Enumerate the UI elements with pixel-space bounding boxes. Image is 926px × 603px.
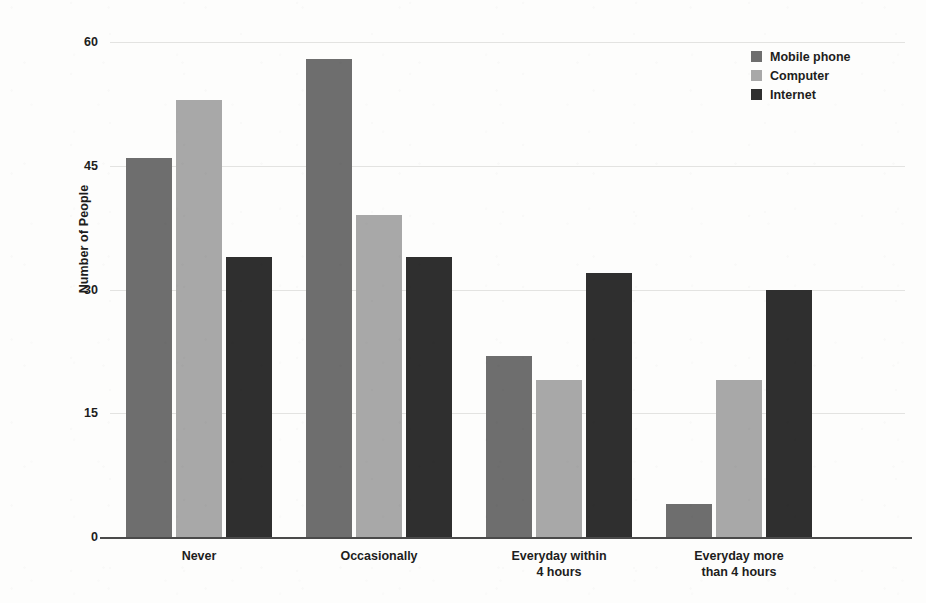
legend-item: Mobile phone <box>751 48 851 65</box>
legend-item: Computer <box>751 67 851 84</box>
y-tick-label: 0 <box>54 530 98 544</box>
bar <box>226 257 272 538</box>
y-tick-label: 15 <box>54 406 98 420</box>
y-tick-label: 30 <box>54 283 98 297</box>
y-tick-label: 45 <box>54 159 98 173</box>
x-category-label: Occasionally <box>289 548 469 564</box>
bar-group <box>306 42 452 537</box>
plot-area <box>110 42 905 537</box>
bar-group <box>666 42 812 537</box>
y-axis-tick-labels: 015304560 <box>46 0 98 603</box>
legend-item: Internet <box>751 86 851 103</box>
bar <box>306 59 352 538</box>
bar <box>666 504 712 537</box>
bar <box>406 257 452 538</box>
y-tick-label: 60 <box>54 35 98 49</box>
legend-label: Computer <box>770 69 829 83</box>
bar-chart-figure: Number of People 015304560 NeverOccasion… <box>0 0 926 603</box>
legend-swatch-icon <box>751 70 762 81</box>
bar <box>536 380 582 537</box>
bar <box>486 356 532 538</box>
legend-label: Internet <box>770 88 816 102</box>
legend-label: Mobile phone <box>770 50 851 64</box>
x-axis-line <box>100 537 912 539</box>
bar <box>126 158 172 538</box>
bar-group <box>486 42 632 537</box>
bar <box>586 273 632 537</box>
x-category-label: Never <box>109 548 289 564</box>
bar <box>356 215 402 537</box>
bar <box>766 290 812 538</box>
bar <box>176 100 222 537</box>
x-axis-category-labels: NeverOccasionallyEveryday within 4 hours… <box>110 548 905 600</box>
chart-legend: Mobile phoneComputerInternet <box>751 48 851 105</box>
bar-group <box>126 42 272 537</box>
legend-swatch-icon <box>751 51 762 62</box>
x-category-label: Everyday more than 4 hours <box>649 548 829 580</box>
bar <box>716 380 762 537</box>
x-category-label: Everyday within 4 hours <box>469 548 649 580</box>
legend-swatch-icon <box>751 89 762 100</box>
